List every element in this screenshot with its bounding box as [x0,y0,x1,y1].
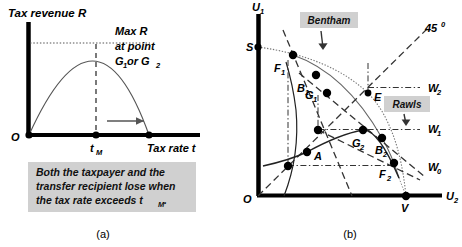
point-label-G1-sub: 1 [313,95,317,104]
panel-a-note-line3-main: the tax rate exceeds t [36,194,143,206]
figure-svg: Tax revenue R O t M Tax rate t [0,0,462,247]
point-label-F1-main: F [274,62,281,74]
panel-a-tm-label: t M [90,142,103,157]
panel-b-feasible-frontier [293,55,399,178]
panel-b-x-axis-label: U 2 [446,190,459,205]
point-label-F2-main: F [379,168,386,180]
panel-b-45-label-main: 45 [424,22,438,34]
panel-b-rawls-arrow [402,114,411,126]
point-V [402,192,410,200]
panel-a-tm-dot [92,131,99,138]
panel-b-w1-sub: 1 [437,129,441,138]
panel-a-note-line2: transfer recipient lose when [36,180,175,192]
point-label-F2: F 2 [379,168,392,183]
panel-b-w2-sub: 2 [436,88,442,97]
panel-a-laffer-curve [29,61,149,135]
panel-a-annotation-g2-sub: 2 [155,61,161,70]
point-A [303,148,311,156]
point-label-F2-sub: 2 [386,174,392,183]
point-label-V: V [401,202,410,214]
point-label-S: S [246,41,254,53]
panel-b-y-axis-label-sub: 1 [260,7,264,16]
panel-b-bentham-line-w0 [318,130,420,180]
panel-b-x-axis-label-sub: 2 [453,196,459,205]
panel-a-direction-arrow [107,117,144,124]
point-unlabeled-upper [314,126,322,134]
panel-b-w-label-0: W 2 [428,82,442,97]
panel-b-caption: (b) [343,228,356,240]
point-F2 [390,159,398,167]
figure-container: Tax revenue R O t M Tax rate t [0,0,462,247]
point-label-F1: F 1 [274,62,285,77]
point-label-B2-main: B [375,144,383,156]
panel-a-tm-label-main: t [90,142,95,154]
point-B1 [312,71,320,79]
panel-a-annotation-line2: at point [115,40,156,52]
panel-a-origin-label: O [11,131,20,143]
point-label-B1-main: B [297,82,305,94]
panel-a-tm-label-sub: M [96,148,103,157]
panel-a-origin-dot [25,131,32,138]
point-S [254,43,261,50]
panel-b-rawls-contour-w2 [368,63,420,93]
panel-a-y-axis-label: Tax revenue R [8,7,87,19]
panel-b-origin-label: O [243,193,252,205]
panel-b-45-degree-label: 45 0 [424,20,446,34]
panel-b-bentham-arrow [318,31,327,50]
point-label-B2-sub: 2 [382,150,388,159]
panel-a-annotation-line3: G 1 or G 2 [115,55,161,70]
point-G1 [323,89,331,97]
panel-a-max-rate-dot [145,131,152,138]
panel-a-x-axis-label: Tax rate t [147,142,197,154]
panel-a-note-line3-post: . [164,194,167,206]
point-F1 [289,51,297,59]
panel-b-steep-transformation-curve [284,62,297,196]
panel-a-max-annotation: Max R at point G 1 or G 2 [115,25,161,70]
point-label-F1-sub: 1 [281,68,285,77]
panel-b-rawls-label: Rawls [393,99,422,110]
point-E [365,90,372,97]
point-label-A: A [313,150,322,162]
panel-b: U 1 U 2 O 45 0 [243,1,459,240]
point-label-G2-sub: 2 [359,143,365,152]
panel-b-y-axis-label: U 1 [252,1,264,16]
point-unlabeled-lower [284,162,292,170]
panel-a-annotation-line1: Max R [115,25,147,37]
point-G2 [359,126,367,134]
panel-b-w-label-2: W 0 [428,161,442,176]
point-label-G1: G 1 [305,89,317,104]
panel-b-45-label-sup: 0 [441,20,446,29]
point-B2 [378,134,386,142]
panel-a: Tax revenue R O t M Tax rate t [8,7,200,240]
panel-a-caption: (a) [96,228,109,240]
panel-b-w-label-1: W 1 [428,123,441,138]
panel-b-bentham-label: Bentham [308,15,351,26]
panel-a-annotation-or-g2: or G [127,55,150,67]
panel-b-w0-sub: 0 [437,167,442,176]
point-label-E: E [374,91,382,103]
panel-a-note-line1: Both the taxpayer and the [36,166,165,178]
